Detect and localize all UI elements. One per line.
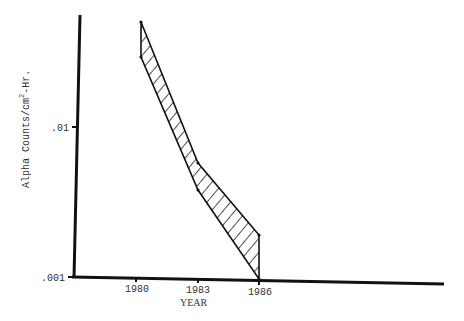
x-tick-label-1980: 1980 [125, 284, 149, 295]
x-tick-label-1983: 1983 [186, 285, 210, 296]
range-band [141, 22, 259, 279]
svg-text:Alpha Counts/cm2-Hr.: Alpha Counts/cm2-Hr. [18, 70, 32, 188]
x-tick-label-1986: 1986 [248, 287, 272, 298]
y-tick-label-001: .001 [41, 273, 65, 284]
chart: .01 .001 1980 1983 1986 YEAR Alpha Count… [0, 0, 464, 321]
y-axis-label: Alpha Counts/cm2-Hr. [18, 70, 32, 188]
x-axis-label: YEAR [180, 297, 208, 308]
y-axis [74, 15, 80, 278]
y-tick-label-01: .01 [51, 123, 69, 134]
